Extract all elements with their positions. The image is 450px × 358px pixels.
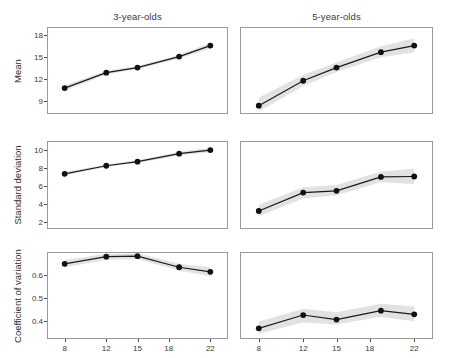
data-point	[62, 171, 68, 177]
data-point	[411, 311, 417, 317]
figure-root: 3-year-olds 5-year-olds Mean Standard de…	[0, 0, 450, 358]
x-tick-mark	[210, 339, 211, 342]
y-tick-mark	[44, 186, 47, 187]
y-tick-label: 8	[25, 163, 43, 172]
y-tick-mark	[44, 298, 47, 299]
data-point	[256, 103, 262, 109]
data-point	[378, 49, 384, 55]
x-tick-mark	[259, 339, 260, 342]
data-point	[378, 174, 384, 180]
y-tick-mark	[44, 275, 47, 276]
data-point	[176, 151, 182, 157]
x-tick-label: 18	[365, 344, 374, 353]
y-tick-label: 12	[25, 75, 43, 84]
data-point	[411, 174, 417, 180]
y-tick-label: 9	[25, 97, 43, 106]
data-point	[256, 208, 262, 214]
y-tick-label: 6	[25, 181, 43, 190]
x-tick-mark	[65, 339, 66, 342]
panel-title-5-year-olds: 5-year-olds	[240, 11, 433, 22]
y-tick-label: 18	[25, 31, 43, 40]
data-point	[300, 78, 306, 84]
confidence-ribbon	[259, 38, 414, 111]
y-tick-mark	[44, 168, 47, 169]
y-tick-mark	[44, 57, 47, 58]
x-tick-mark	[370, 339, 371, 342]
x-tick-label: 12	[299, 344, 308, 353]
y-tick-mark	[44, 321, 47, 322]
panel-title-3-year-olds: 3-year-olds	[47, 11, 228, 22]
plot-panel-mean-3-year-olds	[47, 27, 228, 114]
data-point	[378, 308, 384, 314]
data-point	[334, 65, 340, 71]
x-tick-label: 18	[164, 344, 173, 353]
data-point	[334, 188, 340, 194]
data-point	[62, 261, 68, 267]
y-tick-label: 0.5	[25, 293, 43, 302]
x-tick-mark	[337, 339, 338, 342]
y-tick-mark	[44, 101, 47, 102]
data-point	[411, 43, 417, 49]
x-tick-label: 22	[410, 344, 419, 353]
x-tick-label: 12	[102, 344, 111, 353]
x-tick-mark	[169, 339, 170, 342]
y-tick-mark	[44, 79, 47, 80]
x-tick-label: 8	[257, 344, 261, 353]
plot-panel-standard-deviation-3-year-olds	[47, 141, 228, 229]
data-point	[103, 163, 109, 169]
data-point	[207, 147, 213, 153]
y-tick-label: 0.4	[25, 316, 43, 325]
y-tick-mark	[44, 204, 47, 205]
x-tick-label: 8	[62, 344, 66, 353]
data-point	[135, 159, 141, 165]
x-tick-mark	[138, 339, 139, 342]
x-tick-label: 15	[332, 344, 341, 353]
data-point	[62, 85, 68, 91]
plot-panel-mean-5-year-olds	[240, 27, 433, 114]
data-point	[135, 65, 141, 71]
y-tick-mark	[44, 222, 47, 223]
y-tick-mark	[44, 35, 47, 36]
data-point	[135, 253, 141, 259]
x-tick-mark	[303, 339, 304, 342]
y-tick-mark	[44, 150, 47, 151]
y-tick-label: 15	[25, 53, 43, 62]
y-tick-label: 10	[25, 146, 43, 155]
data-point	[176, 54, 182, 60]
y-tick-label: 0.6	[25, 270, 43, 279]
data-point	[334, 317, 340, 323]
data-point	[300, 312, 306, 318]
data-point	[176, 264, 182, 270]
y-tick-label: 4	[25, 199, 43, 208]
x-tick-label: 15	[133, 344, 142, 353]
y-tick-label: 2	[25, 217, 43, 226]
x-tick-mark	[106, 339, 107, 342]
plot-panel-standard-deviation-5-year-olds	[240, 141, 433, 229]
data-point	[256, 325, 262, 331]
y-axis-label-standard-deviation: Standard deviation	[12, 145, 23, 224]
plot-panel-coefficient-of-variation-5-year-olds	[240, 252, 433, 339]
y-axis-label-mean: Mean	[12, 59, 23, 83]
data-point	[103, 70, 109, 76]
data-point	[103, 254, 109, 260]
x-tick-label: 22	[206, 344, 215, 353]
data-point	[207, 43, 213, 49]
y-axis-label-coefficient-of-variation: Coefficient of variation	[12, 249, 23, 343]
plot-panel-coefficient-of-variation-3-year-olds	[47, 252, 228, 339]
data-point	[300, 190, 306, 196]
x-tick-mark	[414, 339, 415, 342]
data-point	[207, 269, 213, 275]
